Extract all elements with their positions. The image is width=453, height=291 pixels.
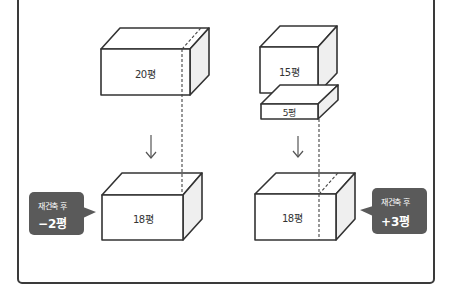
callout-left: 재건축 후 −2평 (29, 192, 84, 235)
box-label-20: 20평 (135, 66, 155, 81)
diagram-canvas: 20평 15평 5평 18평 18평 재건축 후 −2평 재건축 후 +3평 (0, 0, 453, 291)
callout-tail-left (83, 207, 96, 218)
arrow-down-icon (293, 136, 303, 157)
box-label-5: 5평 (283, 106, 296, 119)
box-label-18-right: 18평 (282, 210, 302, 225)
callout-value: −2평 (38, 214, 67, 231)
box-label-18-left: 18평 (133, 211, 153, 226)
box-15-pyeong (260, 26, 337, 93)
callout-caption: 재건축 후 (38, 200, 67, 211)
callout-caption: 재건축 후 (381, 196, 410, 207)
callout-right: 재건축 후 +3평 (372, 188, 427, 234)
box-label-15: 15평 (279, 64, 299, 79)
boxes-drawing (0, 0, 453, 291)
callout-value: +3평 (381, 212, 410, 229)
box-18-pyeong-left (102, 173, 202, 240)
arrow-down-icon (146, 135, 156, 158)
box-20-pyeong (101, 28, 209, 95)
box-18-pyeong-right (255, 173, 355, 240)
